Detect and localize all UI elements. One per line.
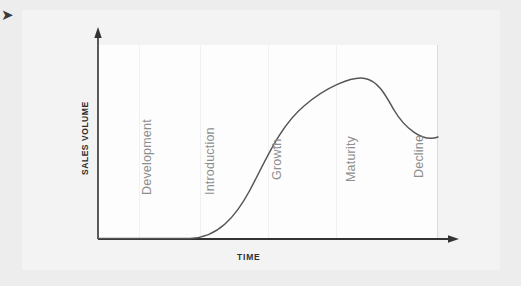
x-axis-arrowhead-icon	[448, 235, 459, 243]
stage-label-introduction: Introduction	[203, 127, 217, 195]
x-axis-title: TIME	[237, 252, 261, 262]
chart-card: SALES VOLUME TIME Development Introducti…	[22, 10, 500, 270]
chart-svg	[22, 10, 500, 270]
stage-label-maturity: Maturity	[344, 136, 358, 182]
stage-label-development: Development	[140, 119, 154, 195]
y-axis-title: SALES VOLUME	[80, 101, 90, 175]
stage-label-decline: Decline	[412, 135, 426, 178]
edge-chevron-icon: ➤	[1, 7, 15, 23]
product-lifecycle-figure: ➤ SALES VOLUME TIME Development Introd	[0, 0, 521, 286]
y-axis-arrowhead-icon	[94, 27, 101, 38]
stage-label-growth: Growth	[270, 139, 284, 181]
